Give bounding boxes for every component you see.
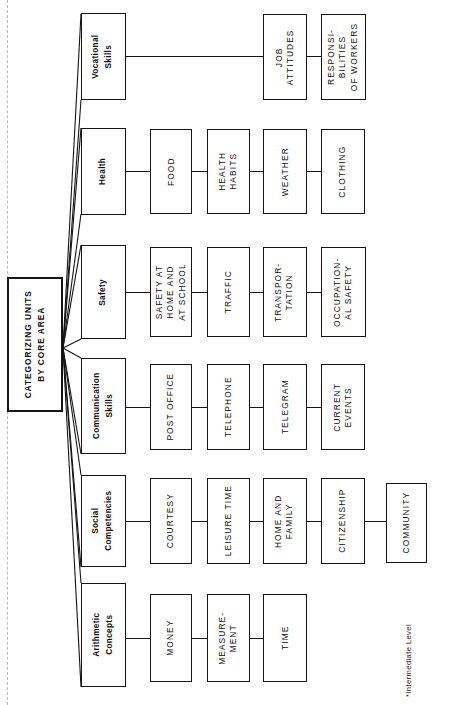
unit-label: MONEY bbox=[165, 620, 176, 656]
edge-communication-to-post-office bbox=[126, 407, 150, 408]
unit-label: HEALTH HABITS bbox=[217, 152, 240, 191]
unit-node-transportation[interactable]: TRANSPOR- TATION bbox=[263, 247, 307, 337]
unit-node-health-habits[interactable]: HEALTH HABITS bbox=[207, 129, 250, 214]
edge-traffic-to-transportation bbox=[250, 292, 263, 293]
unit-node-clothing[interactable]: CLOTHING bbox=[321, 129, 365, 214]
unit-node-weather[interactable]: WEATHER bbox=[263, 129, 307, 214]
unit-label: JOB ATTITUDES bbox=[274, 29, 297, 85]
edge-health-to-food bbox=[126, 171, 150, 172]
edge-food-to-health-habits bbox=[192, 171, 207, 172]
edge-transportation-to-occupational-safety bbox=[307, 292, 321, 293]
edge-arithmetic-to-money bbox=[126, 638, 150, 639]
unit-label: RESPONSI- BILITIES OF WORKERS bbox=[326, 23, 360, 91]
diagram-canvas: CATEGORIZING UNITS BY CORE AREA Vocation… bbox=[0, 0, 452, 705]
category-node-social-competencies[interactable]: Social Competencies bbox=[81, 475, 126, 567]
root-label: CATEGORIZING UNITS BY CORE AREA bbox=[22, 290, 49, 398]
category-label: Safety bbox=[97, 279, 110, 306]
unit-label: HOME AND FAMILY bbox=[274, 494, 297, 547]
category-node-communication-skills[interactable]: Communication Skills bbox=[81, 358, 126, 454]
category-label: Communication Skills bbox=[91, 373, 116, 439]
unit-node-traffic[interactable]: TRAFFIC bbox=[207, 247, 250, 337]
unit-node-responsibilities-of-workers[interactable]: RESPONSI- BILITIES OF WORKERS bbox=[321, 14, 366, 100]
category-node-arithmetic-concepts[interactable]: Arithmetic Concepts bbox=[81, 583, 126, 687]
unit-label: CITIZENSHIP bbox=[337, 489, 348, 553]
edge-money-to-measurement bbox=[192, 638, 207, 639]
category-label: Vocational Skills bbox=[91, 34, 116, 78]
edge-telegram-to-current-events bbox=[307, 407, 321, 408]
category-node-vocational-skills[interactable]: Vocational Skills bbox=[81, 13, 126, 100]
root-node: CATEGORIZING UNITS BY CORE AREA bbox=[7, 277, 63, 412]
edge-vocational-to-job-attitudes bbox=[126, 56, 263, 57]
unit-node-citizenship[interactable]: CITIZENSHIP bbox=[321, 478, 365, 564]
unit-label: MEASURE- MENT bbox=[217, 611, 240, 664]
unit-label: POST OFFICE bbox=[165, 373, 176, 441]
unit-label: LEISURE TIME bbox=[223, 485, 234, 556]
unit-label: COMMUNITY bbox=[401, 492, 412, 554]
category-label: Arithmetic Concepts bbox=[91, 613, 116, 657]
edge-leisure-time-to-home-and-family bbox=[250, 521, 263, 522]
footnote-intermediate-level: *Intermediate Level bbox=[404, 624, 413, 697]
unit-node-time[interactable]: TIME bbox=[263, 594, 307, 682]
unit-node-food[interactable]: FOOD bbox=[150, 129, 192, 214]
unit-label: WEATHER bbox=[279, 147, 290, 196]
edge-telephone-to-telegram bbox=[250, 407, 263, 408]
category-node-safety[interactable]: Safety bbox=[81, 245, 126, 339]
edge-post-office-to-telephone bbox=[192, 407, 207, 408]
unit-label: TRANSPOR- TATION bbox=[274, 262, 297, 321]
edge-health-habits-to-weather bbox=[250, 171, 263, 172]
unit-node-home-and-family[interactable]: HOME AND FAMILY bbox=[263, 478, 307, 564]
unit-node-current-events[interactable]: CURRENT EVENTS bbox=[321, 364, 365, 450]
unit-node-job-attitudes[interactable]: JOB ATTITUDES bbox=[263, 14, 307, 100]
edge-job-attitudes-to-responsibilities bbox=[307, 56, 321, 57]
unit-label: SAFETY AT HOME AND AT SCHOOL bbox=[154, 263, 188, 321]
unit-label: CURRENT EVENTS bbox=[332, 383, 355, 432]
unit-label: TELEGRAM bbox=[279, 380, 290, 435]
edge-social-to-courtesy bbox=[126, 521, 150, 522]
edge-courtesy-to-leisure-time bbox=[192, 521, 207, 522]
unit-node-courtesy[interactable]: COURTESY bbox=[150, 478, 192, 564]
unit-label: CLOTHING bbox=[337, 145, 348, 197]
edge-weather-to-clothing bbox=[307, 171, 321, 172]
unit-label: TRAFFIC bbox=[223, 270, 234, 313]
edge-home-and-family-to-citizenship bbox=[307, 521, 321, 522]
unit-label: TELEPHONE bbox=[223, 377, 234, 438]
unit-node-leisure-time[interactable]: LEISURE TIME bbox=[207, 478, 250, 564]
unit-label: FOOD bbox=[165, 157, 176, 186]
unit-node-safety-at-home-and-at-school[interactable]: SAFETY AT HOME AND AT SCHOOL bbox=[150, 247, 192, 337]
category-label: Social Competencies bbox=[91, 491, 116, 551]
unit-node-telegram[interactable]: TELEGRAM bbox=[263, 364, 307, 450]
edge-citizenship-to-community bbox=[365, 521, 386, 522]
unit-node-telephone[interactable]: TELEPHONE bbox=[207, 364, 250, 450]
category-label: Health bbox=[97, 158, 110, 185]
unit-node-community[interactable]: COMMUNITY bbox=[386, 483, 427, 563]
unit-node-money[interactable]: MONEY bbox=[150, 594, 192, 682]
unit-label: OCCUPATION- AL SAFETY bbox=[332, 257, 355, 326]
unit-node-measurement[interactable]: MEASURE- MENT bbox=[207, 594, 250, 682]
unit-node-occupational-safety[interactable]: OCCUPATION- AL SAFETY bbox=[321, 247, 366, 337]
unit-label: TIME bbox=[279, 626, 290, 650]
unit-node-post-office[interactable]: POST OFFICE bbox=[150, 364, 192, 450]
edge-measurement-to-time bbox=[250, 638, 263, 639]
edge-safety-at-home-to-traffic bbox=[192, 292, 207, 293]
category-node-health[interactable]: Health bbox=[81, 128, 126, 215]
edge-safety-to-safety-at-home-and-at-school bbox=[126, 292, 150, 293]
unit-label: COURTESY bbox=[165, 493, 176, 548]
